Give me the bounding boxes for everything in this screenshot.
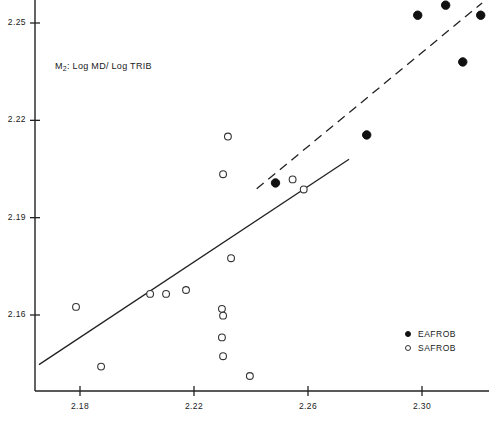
data-point-safrob	[163, 291, 170, 298]
data-point-safrob	[219, 305, 226, 312]
legend-item-safrob: SAFROB	[405, 341, 456, 355]
scatter-plot-figure: M2: Log MD/ Log TRIB 2.162.192.222.252.1…	[0, 0, 499, 425]
data-point-safrob	[220, 171, 227, 178]
y-tick-label: 2.19	[0, 212, 26, 222]
y-tick-label: 2.16	[0, 309, 26, 319]
data-point-safrob	[183, 287, 190, 294]
y-tick-label: 2.22	[0, 114, 26, 124]
filled-circle-icon	[405, 331, 411, 337]
fit-line-eafrob-fit	[257, 3, 482, 189]
data-point-eafrob	[363, 131, 371, 139]
data-point-safrob	[289, 176, 296, 183]
data-points	[73, 1, 485, 379]
annotation-base: M	[55, 61, 63, 71]
series-annotation-label: M2: Log MD/ Log TRIB	[55, 61, 152, 71]
x-tick-label: 2.26	[278, 401, 338, 411]
legend-label-eafrob: EAFROB	[418, 329, 456, 339]
data-point-safrob	[219, 334, 226, 341]
data-point-safrob	[228, 255, 235, 262]
data-point-safrob	[300, 186, 307, 193]
data-point-eafrob	[477, 11, 485, 19]
data-point-eafrob	[414, 11, 422, 19]
fit-lines	[39, 3, 482, 365]
x-tick-label: 2.30	[392, 401, 452, 411]
annotation-rest: : Log MD/ Log TRIB	[67, 61, 152, 71]
legend-label-safrob: SAFROB	[418, 343, 456, 353]
data-point-safrob	[225, 133, 232, 140]
data-point-safrob	[220, 312, 227, 319]
data-point-safrob	[73, 303, 80, 310]
data-point-eafrob	[459, 58, 467, 66]
annotation-subscript: 2	[63, 65, 67, 72]
data-point-eafrob	[441, 1, 449, 9]
legend: EAFROB SAFROB	[405, 327, 456, 355]
x-tick-label: 2.18	[50, 401, 110, 411]
data-point-eafrob	[271, 179, 279, 187]
legend-item-eafrob: EAFROB	[405, 327, 456, 341]
y-tick-label: 2.25	[0, 17, 26, 27]
data-point-safrob	[98, 363, 105, 370]
data-point-safrob	[220, 353, 227, 360]
open-circle-icon	[405, 345, 411, 351]
data-point-safrob	[246, 373, 253, 380]
x-tick-label: 2.22	[164, 401, 224, 411]
data-point-safrob	[147, 291, 154, 298]
